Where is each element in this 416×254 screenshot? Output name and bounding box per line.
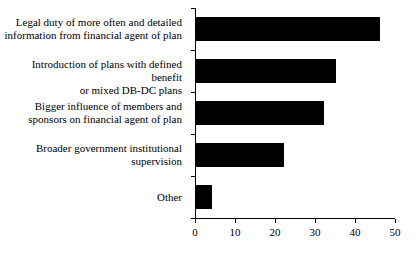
bar: [196, 143, 284, 167]
x-tick-label: 10: [223, 226, 247, 239]
y-tick-mark: [191, 8, 195, 9]
y-tick-mark: [191, 92, 195, 93]
x-tick-label: 0: [183, 226, 207, 239]
x-tick-label: 50: [383, 226, 407, 239]
x-tick-mark: [315, 219, 316, 223]
x-tick-label: 30: [303, 226, 327, 239]
x-tick-mark: [355, 219, 356, 223]
category-label: Introduction of plans with defined benef…: [0, 58, 182, 97]
x-tick-label: 40: [343, 226, 367, 239]
category-label: Other: [157, 191, 182, 204]
x-tick-label: 20: [263, 226, 287, 239]
category-label: Legal duty of more often and detailed in…: [5, 16, 182, 42]
y-tick-mark: [191, 218, 195, 219]
category-label: Broader government institutional supervi…: [36, 142, 182, 168]
bar: [196, 101, 324, 125]
plot-area: 0 10 20 30 40 50: [195, 8, 395, 218]
x-tick-mark: [195, 219, 196, 223]
x-axis-line: [195, 218, 395, 219]
bar: [196, 17, 380, 41]
y-tick-mark: [191, 50, 195, 51]
y-tick-mark: [191, 176, 195, 177]
y-tick-mark: [191, 134, 195, 135]
x-tick-mark: [275, 219, 276, 223]
x-tick-mark: [235, 219, 236, 223]
x-tick-mark: [395, 219, 396, 223]
category-label: Bigger influence of members and sponsors…: [28, 100, 182, 126]
bar: [196, 59, 336, 83]
bar: [196, 185, 212, 209]
category-axis-labels: Legal duty of more often and detailed in…: [0, 0, 190, 218]
bar-chart: Legal duty of more often and detailed in…: [0, 0, 416, 254]
